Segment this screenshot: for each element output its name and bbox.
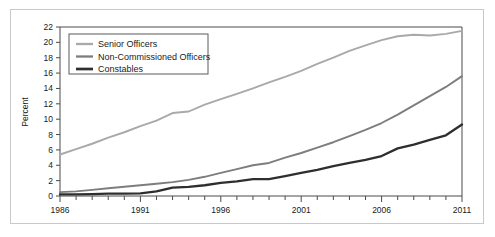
y-tick-label: 6 <box>48 145 53 155</box>
y-tick-label: 20 <box>44 37 54 47</box>
y-tick-label: 18 <box>44 53 54 63</box>
x-tick-label: 2011 <box>453 205 472 215</box>
series-line <box>60 125 462 195</box>
x-tick-label: 1991 <box>131 205 150 215</box>
x-tick-label: 1996 <box>211 205 230 215</box>
y-tick-label: 0 <box>48 191 53 201</box>
legend-label: Non-Commissioned Officers <box>98 52 211 62</box>
chart-legend: Senior OfficersNon-Commissioned Officers… <box>69 34 211 74</box>
x-axis-ticks: 198619911996200120062011 <box>51 196 472 215</box>
y-tick-label: 12 <box>44 99 54 109</box>
x-tick-label: 1986 <box>51 205 70 215</box>
y-tick-label: 4 <box>48 160 53 170</box>
y-axis-ticks: 0246810121416182022 <box>44 22 60 201</box>
y-tick-label: 2 <box>48 176 53 186</box>
legend-label: Constables <box>98 64 144 74</box>
y-axis-title: Percent <box>20 97 30 127</box>
line-chart: 0246810121416182022 19861991199620012006… <box>0 0 495 237</box>
y-tick-label: 10 <box>44 114 54 124</box>
x-tick-label: 2006 <box>372 205 391 215</box>
legend-label: Senior Officers <box>98 39 158 49</box>
chart-figure: 0246810121416182022 19861991199620012006… <box>0 0 495 237</box>
y-tick-label: 16 <box>44 68 54 78</box>
x-tick-label: 2001 <box>292 205 311 215</box>
y-tick-label: 14 <box>44 83 54 93</box>
y-tick-label: 22 <box>44 22 54 32</box>
y-tick-label: 8 <box>48 130 53 140</box>
